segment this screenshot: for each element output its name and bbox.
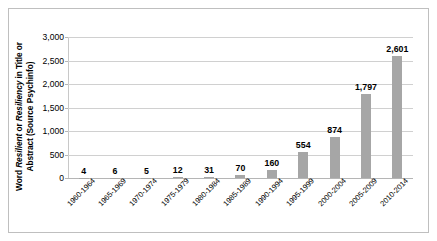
- bar-value-label: 12: [173, 165, 183, 175]
- y-axis-title-part: or: [14, 121, 24, 134]
- chart-frame: Word Resilient or Resiliency in Title or…: [8, 8, 429, 233]
- bar[interactable]: [361, 94, 371, 178]
- y-axis-tick-label: 1,500: [42, 103, 64, 113]
- bar-value-label: 5: [144, 166, 149, 176]
- x-axis-category-label: 2005-2009: [347, 176, 379, 208]
- bar-group: 311980-1984: [193, 37, 224, 178]
- y-axis-tick-mark: [65, 178, 68, 179]
- x-axis-category-label: 1975-1979: [159, 176, 191, 208]
- y-axis-title-part: Resilient: [14, 134, 24, 168]
- bar-value-label: 70: [236, 163, 246, 173]
- y-axis-title: Word Resilient or Resiliency in Title or…: [14, 33, 35, 201]
- bar-group: 121975-1979: [162, 37, 193, 178]
- y-axis-tick-label: 2,500: [42, 56, 64, 66]
- bar-group: 2,6012010-2014: [382, 37, 413, 178]
- y-axis-tick-label: 1,000: [42, 126, 64, 136]
- bar-group: 701985-1989: [225, 37, 256, 178]
- bar-value-label: 31: [204, 165, 214, 175]
- x-axis-category-label: 2010-2014: [379, 176, 411, 208]
- x-axis-category-label: 1960-1964: [65, 176, 97, 208]
- x-axis-category-label: 1970-1974: [128, 176, 160, 208]
- bar-group: 41960-1964: [68, 37, 99, 178]
- x-axis-category-label: 1995-1999: [284, 176, 316, 208]
- bar-value-label: 554: [296, 140, 311, 150]
- bar-value-label: 1,797: [355, 82, 377, 92]
- x-axis-category-label: 1965-1969: [96, 176, 128, 208]
- y-axis-tick-label: 0: [59, 173, 64, 183]
- bar-value-label: 160: [265, 158, 280, 168]
- bar-group: 51970-1974: [131, 37, 162, 178]
- bar[interactable]: [298, 152, 308, 178]
- y-axis-tick-label: 2,000: [42, 79, 64, 89]
- x-axis-category-label: 2000-2004: [316, 176, 348, 208]
- bar[interactable]: [392, 56, 402, 178]
- bar-value-label: 4: [81, 166, 86, 176]
- bar-group: 61965-1969: [99, 37, 130, 178]
- x-axis-category-label: 1985-1989: [222, 176, 254, 208]
- plot-area: 05001,0001,5002,0002,5003,000 41960-1964…: [68, 37, 413, 178]
- x-axis-category-label: 1990-1994: [253, 176, 285, 208]
- bar-value-label: 6: [113, 166, 118, 176]
- bar-value-label: 874: [327, 125, 342, 135]
- bar-value-label: 2,601: [386, 44, 408, 54]
- bar-group: 1,7972005-2009: [350, 37, 381, 178]
- bar-group: 5541995-1999: [288, 37, 319, 178]
- y-axis-title-part: Resiliency: [14, 81, 24, 121]
- y-axis-title-part: Word: [14, 168, 24, 191]
- x-axis-category-label: 1980-1984: [190, 176, 222, 208]
- chart-figure: Word Resilient or Resiliency in Title or…: [0, 0, 437, 241]
- y-axis-tick-label: 3,000: [42, 32, 64, 42]
- bar[interactable]: [330, 137, 340, 178]
- bar-group: 1601990-1994: [256, 37, 287, 178]
- y-axis-tick-label: 500: [50, 150, 64, 160]
- bar-group: 8742000-2004: [319, 37, 350, 178]
- bar[interactable]: [267, 170, 277, 178]
